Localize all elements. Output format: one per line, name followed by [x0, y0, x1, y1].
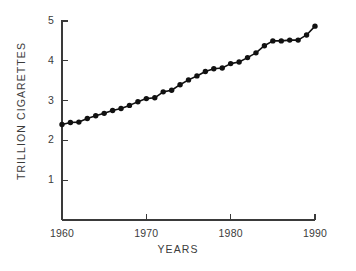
y-tick-label-5: 5 [34, 14, 54, 26]
x-axis-title: YEARS [0, 243, 356, 255]
data-point [110, 108, 115, 113]
data-point [245, 55, 250, 60]
data-point [270, 38, 275, 43]
y-tick-label-3: 3 [34, 94, 54, 106]
x-axis-ticks [62, 214, 315, 220]
axes-group [62, 20, 315, 220]
data-point [177, 82, 182, 87]
data-point [76, 119, 81, 124]
data-point [118, 106, 123, 111]
data-point [262, 43, 267, 48]
data-point [85, 116, 90, 121]
x-tick-label-1980: 1980 [211, 227, 251, 239]
data-point [144, 96, 149, 101]
data-point [312, 23, 317, 28]
data-point [68, 120, 73, 125]
data-point [152, 95, 157, 100]
data-point [287, 37, 292, 42]
y-axis-ticks [62, 21, 68, 180]
data-point [135, 99, 140, 104]
data-point [279, 38, 284, 43]
data-point [203, 69, 208, 74]
data-point [93, 113, 98, 118]
series-line [62, 26, 315, 124]
data-point [161, 89, 166, 94]
data-point [127, 103, 132, 108]
data-series-group [59, 23, 317, 127]
data-point [59, 122, 64, 127]
y-tick-label-4: 4 [34, 54, 54, 66]
data-point [253, 50, 258, 55]
x-tick-label-1990: 1990 [295, 227, 335, 239]
data-point [101, 111, 106, 116]
y-tick-label-1: 1 [34, 173, 54, 185]
data-point [295, 37, 300, 42]
data-point [211, 66, 216, 71]
cigarette-production-line-chart: 12345 1960197019801990 YEARS TRILLION CI… [0, 0, 356, 271]
data-point [304, 32, 309, 37]
data-point [220, 65, 225, 70]
y-axis-title: TRILLION CIGARETTES [15, 36, 27, 186]
data-point [186, 77, 191, 82]
data-point [194, 73, 199, 78]
x-tick-label-1970: 1970 [126, 227, 166, 239]
data-point [169, 88, 174, 93]
data-point [228, 61, 233, 66]
data-point [236, 59, 241, 64]
x-tick-label-1960: 1960 [42, 227, 82, 239]
y-tick-label-2: 2 [34, 133, 54, 145]
series-markers [59, 23, 317, 127]
